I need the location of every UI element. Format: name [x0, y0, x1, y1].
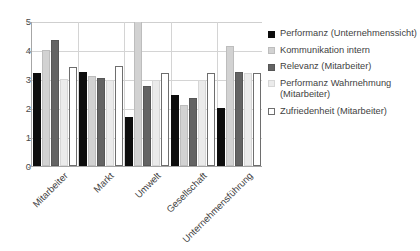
bar-group [170, 22, 216, 166]
legend-item: Performanz Wahrnehmung (Mitarbeiter) [268, 78, 418, 101]
bar [42, 50, 50, 166]
bar [207, 73, 215, 166]
legend-label: Performanz Wahrnehmung (Mitarbeiter) [280, 78, 418, 101]
bar [51, 40, 59, 166]
bar-group [216, 22, 262, 166]
bar [33, 73, 41, 166]
x-tick-label: Gesellschaft [164, 170, 209, 215]
bar-group [32, 22, 78, 166]
x-tick-label: Umwelt [132, 170, 162, 200]
legend-swatch [268, 47, 275, 54]
legend-label: Relevanz (Mitarbeiter) [280, 61, 371, 73]
bar [180, 105, 188, 166]
bar [69, 67, 77, 166]
legend-swatch [268, 80, 275, 87]
legend-label: Zufriedenheit (Mitarbeiter) [280, 106, 387, 118]
bar [106, 80, 114, 166]
legend-label: Kommunikation intern [280, 45, 370, 57]
bar [115, 66, 123, 166]
bar-group [78, 22, 124, 166]
bar [134, 22, 142, 166]
legend-item: Zufriedenheit (Mitarbeiter) [268, 106, 418, 118]
bar-groups [32, 22, 262, 166]
legend-swatch [268, 64, 275, 71]
bar [97, 78, 105, 166]
bar [198, 80, 206, 166]
bar [253, 73, 261, 166]
chart-legend: Performanz (Unternehmenssicht)Kommunikat… [268, 28, 418, 122]
bar [60, 79, 68, 166]
legend-item: Performanz (Unternehmenssicht) [268, 28, 418, 40]
plot-area [31, 22, 262, 167]
bar [244, 73, 252, 166]
legend-item: Relevanz (Mitarbeiter) [268, 61, 418, 73]
bar [143, 86, 151, 166]
y-axis: 543210 [0, 22, 31, 168]
bar [79, 72, 87, 166]
legend-label: Performanz (Unternehmenssicht) [280, 28, 417, 40]
bar [171, 95, 179, 166]
x-tick-label: Mitarbeiter [30, 170, 70, 210]
legend-item: Kommunikation intern [268, 45, 418, 57]
bar [235, 72, 243, 166]
bar [226, 46, 234, 166]
bar-group [124, 22, 170, 166]
x-tick-label: Markt [92, 170, 117, 195]
bar [161, 73, 169, 166]
legend-swatch [268, 108, 275, 115]
bar [189, 98, 197, 166]
bar-chart: 543210 MitarbeiterMarktUmweltGesellschaf… [0, 0, 420, 251]
bar [217, 108, 225, 166]
bar [88, 76, 96, 166]
bar [125, 117, 133, 166]
bar [152, 80, 160, 166]
x-axis-labels: MitarbeiterMarktUmweltGesellschaftUntern… [31, 168, 262, 251]
legend-swatch [268, 31, 275, 38]
